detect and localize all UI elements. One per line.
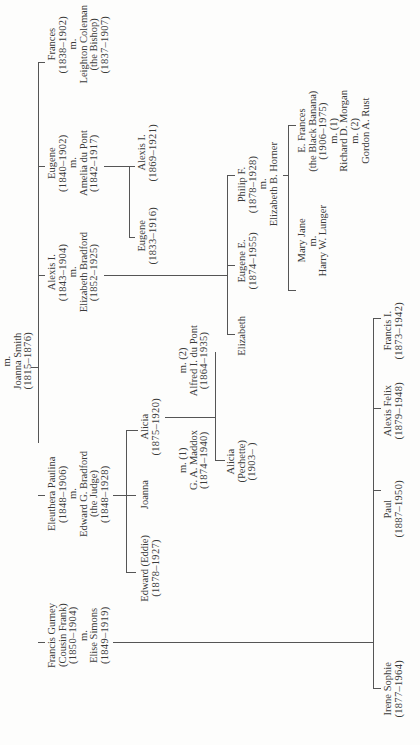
person-alexis: Alexis I. (1843–1904) m. Elizabeth Bradf… bbox=[47, 232, 100, 312]
person-e-frances: E. Frances (the Black Banana) (1906–1975… bbox=[297, 90, 371, 172]
francis-children-connector bbox=[113, 642, 374, 643]
tick-francis-gurney bbox=[38, 642, 45, 643]
tick-alicia bbox=[126, 430, 138, 431]
tick-e-frances bbox=[288, 125, 296, 126]
person-eugene-jr: Eugene (1833–1916) bbox=[137, 207, 158, 265]
person-eugene: Eugene (1840–1902) m. Amelia du Pont (18… bbox=[47, 130, 100, 196]
tick-eugene bbox=[38, 166, 45, 167]
tick-edward bbox=[126, 572, 136, 573]
gen1-spine-line bbox=[38, 62, 39, 443]
eugene-children-connector bbox=[104, 166, 130, 167]
person-mary-jane: Mary Jane m. Harry W. Lunger bbox=[297, 205, 329, 276]
tick-francis-i bbox=[373, 318, 381, 319]
tick-eugene-e bbox=[227, 265, 235, 266]
tick-eleuthera bbox=[38, 495, 45, 496]
tick-mary-jane bbox=[288, 290, 296, 291]
spouse-alfred-du-pont: m. (2) Alfred I. du Pont (1864–1935) bbox=[178, 325, 210, 396]
person-francis-i: Francis I. (1873–1942) bbox=[383, 302, 404, 360]
tick-eugene-jr bbox=[129, 237, 135, 238]
person-frances: Frances (1838–1902) m. Leighton Coleman … bbox=[47, 5, 111, 83]
person-alexis-felix: Alexis Felix (1879–1948) bbox=[383, 382, 404, 440]
person-alexis-i: Alexis I. (1869–1921) bbox=[137, 124, 158, 182]
root-spouse-node: m. Joanna Smith (1815–1876) bbox=[2, 332, 34, 390]
person-alicia-pechette: Alicia (Pechette) (1903– ) bbox=[226, 440, 258, 483]
tick-paul bbox=[373, 490, 381, 491]
tick-irene bbox=[373, 688, 381, 689]
person-philip: Philip F. (1878–1928) m. Elizabeth B. Ho… bbox=[237, 142, 279, 226]
spouse-maddox: m. (1) G. A. Maddox (1874–1940) bbox=[178, 430, 210, 490]
eugene-children-spine bbox=[129, 166, 130, 238]
person-francis-gurney: Francis Gurney (Cousin Frank) (1850–1904… bbox=[47, 603, 111, 668]
tick-alicia-pechette bbox=[215, 460, 225, 461]
person-eleuthera: Eleuthera Paulina (1848–1906) m. Edward … bbox=[47, 451, 111, 537]
tick-alexis-felix bbox=[373, 408, 381, 409]
alexis-children-connector bbox=[104, 275, 228, 276]
tick-frances bbox=[38, 62, 45, 63]
family-tree-diagram: m. Joanna Smith (1815–1876) Frances (183… bbox=[0, 0, 420, 745]
eleuthera-children-spine bbox=[126, 430, 127, 573]
person-eugene-e: Eugene E. (1874–1955) bbox=[237, 232, 258, 290]
tick-alexis bbox=[38, 275, 45, 276]
alexis-children-spine bbox=[227, 175, 228, 335]
person-alicia: Alicia (1875–1920) bbox=[140, 398, 161, 456]
philip-children-spine bbox=[288, 125, 289, 291]
francis-children-spine bbox=[373, 318, 374, 689]
tick-alexis-i bbox=[129, 166, 135, 167]
tick-joanna bbox=[126, 495, 136, 496]
alicia-marriage-spine bbox=[215, 352, 216, 461]
person-joanna: Joanna bbox=[140, 480, 151, 509]
person-irene-sophie: Irene Sophie (1877–1964) bbox=[383, 660, 404, 718]
eleuthera-children-connector bbox=[113, 495, 126, 496]
person-edward: Edward (Eddie) (1878–1927) bbox=[140, 535, 161, 602]
alicia-marriage-connector bbox=[165, 417, 216, 418]
tick-philip bbox=[227, 175, 235, 176]
tick-elizabeth bbox=[227, 334, 235, 335]
person-elizabeth: Elizabeth bbox=[237, 316, 248, 356]
person-paul: Paul (1887–1950) bbox=[383, 480, 404, 538]
